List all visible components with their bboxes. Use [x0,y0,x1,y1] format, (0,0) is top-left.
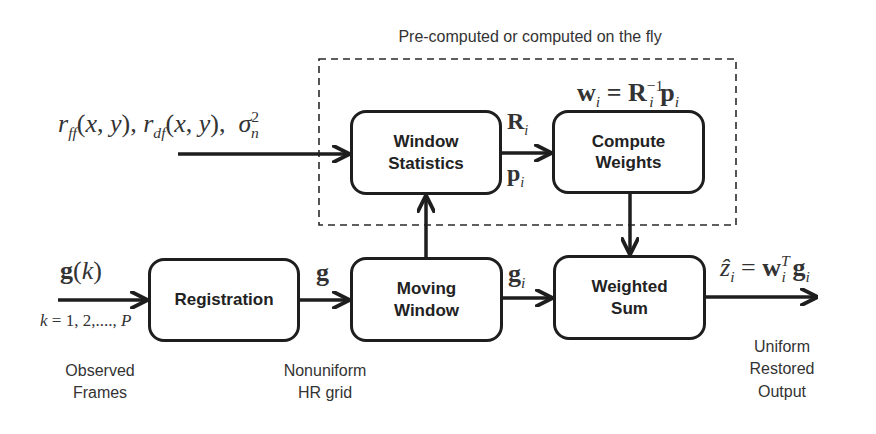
g-label: g [316,258,329,288]
registration-block: Registration [148,258,300,342]
block-line: Registration [174,289,273,310]
block-line: Window [394,300,459,321]
R-label: Ri [507,108,528,139]
output-equation: ẑi = wTi gi [720,252,810,286]
region-title: Pre-computed or computed on the fly [330,26,730,48]
block-line: Sum [591,298,667,319]
block-line: Statistics [388,153,464,174]
block-line: Weighted [591,276,667,297]
frames-input-label: g(k) [60,256,102,286]
p-label: pi [507,160,524,191]
stats-input-label: rff(x, y), rdf(x, y), σ2n [58,108,259,142]
block-line: Weights [592,152,666,173]
nonuniform-grid-caption: Nonuniform HR grid [265,360,385,405]
weighted-sum-block: Weighted Sum [553,255,706,340]
block-line: Compute [592,131,666,152]
window-statistics-block: Window Statistics [350,110,502,195]
observed-frames-caption: Observed Frames [40,360,160,405]
uniform-output-caption: Uniform Restored Output [727,336,837,403]
diagram-canvas: Pre-computed or computed on the fly Wind… [0,0,876,434]
weights-equation: wi = R−1i pi [577,77,679,111]
g-i-label: gi [508,259,525,292]
block-line: Window [388,131,464,152]
moving-window-block: Moving Window [350,257,503,342]
block-line: Moving [394,278,459,299]
frames-index-label: k = 1, 2,...., P [40,311,131,331]
compute-weights-block: Compute Weights [552,110,705,194]
